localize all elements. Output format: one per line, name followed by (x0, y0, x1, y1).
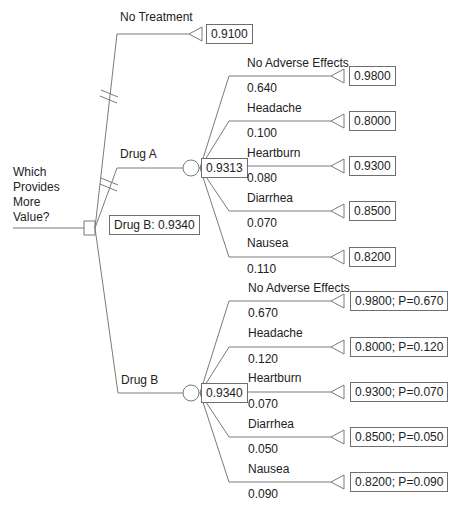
expected-value-drug-b: 0.9340 (201, 383, 248, 403)
outcome-prob: 0.120 (248, 352, 278, 366)
outcome-prob: 0.070 (247, 216, 277, 230)
outcome-value: 0.9300 (349, 156, 396, 176)
terminal-node-icon (189, 27, 202, 41)
outcome-value: 0.9300; P=0.070 (350, 382, 448, 402)
branch-label-drug-b: Drug B (121, 373, 158, 387)
outcome-label: Nausea (248, 462, 289, 476)
outcome-prob: 0.080 (247, 171, 277, 185)
decision-question-line-1: Which (13, 165, 46, 179)
branch-label-no-treatment: No Treatment (120, 10, 193, 24)
best-choice-label: Drug B: 0.9340 (109, 215, 200, 235)
decision-question-line-4: Value? (13, 210, 49, 224)
outcome-value: 0.8500; P=0.050 (350, 427, 448, 447)
outcome-label: Nausea (247, 236, 288, 250)
outcome-value: 0.9800 (349, 66, 396, 86)
decision-question-line-3: More (13, 195, 40, 209)
outcome-value: 0.8500 (349, 201, 396, 221)
outcome-label: Headache (248, 326, 303, 340)
outcome-label: Diarrhea (247, 191, 293, 205)
outcome-label: Heartburn (247, 146, 300, 160)
outcome-prob: 0.050 (248, 442, 278, 456)
outcome-value: 0.8000 (349, 111, 396, 131)
outcome-label: No Adverse Effects (247, 56, 349, 70)
outcome-prob: 0.100 (247, 126, 277, 140)
outcome-value: 0.9800; P=0.670 (350, 291, 448, 311)
branch-label-drug-a: Drug A (120, 147, 157, 161)
decision-node-icon (84, 221, 95, 235)
outcome-prob: 0.670 (248, 306, 278, 320)
expected-value-drug-a: 0.9313 (201, 158, 248, 178)
outcome-value: 0.8200 (349, 247, 396, 267)
outcome-prob: 0.110 (247, 262, 276, 276)
chance-node-b-icon (183, 385, 199, 401)
outcome-label: No Adverse Effects (248, 281, 350, 295)
outcome-label: Diarrhea (248, 417, 294, 431)
terminal-value-no-treatment: 0.9100 (206, 24, 253, 44)
outcome-prob: 0.070 (248, 397, 278, 411)
chance-node-a-icon (183, 160, 199, 176)
outcome-prob: 0.640 (247, 81, 277, 95)
outcome-value: 0.8000; P=0.120 (350, 337, 448, 357)
outcome-label: Headache (247, 101, 302, 115)
outcome-value: 0.8200; P=0.090 (350, 472, 448, 492)
decision-question-line-2: Provides (13, 180, 60, 194)
outcome-prob: 0.090 (248, 487, 278, 501)
outcome-label: Heartburn (248, 371, 301, 385)
